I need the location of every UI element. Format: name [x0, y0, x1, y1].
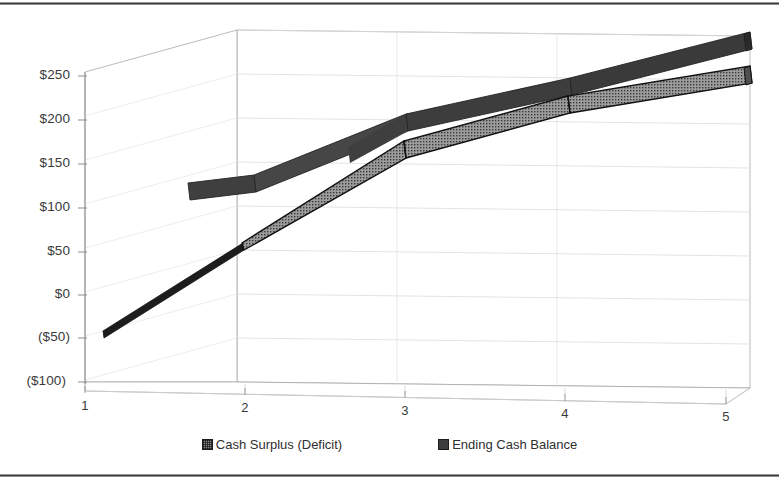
- x-tick-label-3: 3: [390, 403, 420, 418]
- legend-label-cash-surplus: Cash Surplus (Deficit): [216, 437, 342, 452]
- y-tick-label-200: $200: [0, 111, 70, 126]
- x-tick-label-5: 5: [711, 409, 741, 424]
- legend-item-cash-surplus[interactable]: Cash Surplus (Deficit): [202, 437, 342, 452]
- chart-legend: Cash Surplus (Deficit) Ending Cash Balan…: [0, 437, 779, 452]
- cash-flow-chart: $250 $200 $150 $100 $50 $0 ($50) ($100) …: [0, 0, 779, 496]
- y-tick-label-50: $50: [0, 243, 70, 258]
- legend-item-ending-cash-balance[interactable]: Ending Cash Balance: [438, 437, 577, 452]
- x-tick-label-4: 4: [550, 406, 580, 421]
- ending-balance-swatch-icon: [438, 439, 449, 450]
- y-tick-label-250: $250: [0, 67, 70, 82]
- y-tick-label-neg100: ($100): [0, 373, 66, 388]
- plot-area: [0, 0, 779, 496]
- y-tick-label-100: $100: [0, 199, 70, 214]
- surplus-swatch-icon: [202, 439, 213, 450]
- legend-label-ending-cash-balance: Ending Cash Balance: [452, 437, 577, 452]
- y-tick-label-0: $0: [0, 286, 70, 301]
- x-tick-label-2: 2: [230, 400, 260, 415]
- x-tick-label-1: 1: [70, 398, 100, 413]
- y-tick-label-150: $150: [0, 155, 70, 170]
- y-tick-label-neg50: ($50): [0, 329, 70, 344]
